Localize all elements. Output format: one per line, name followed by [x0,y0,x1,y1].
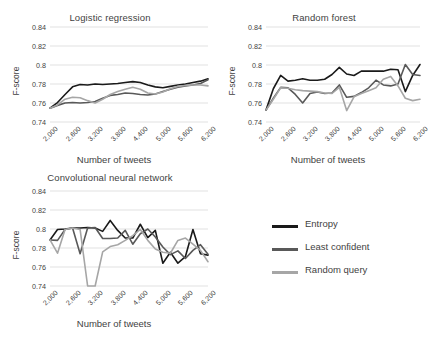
y-tick-label: 0.76 [248,99,262,108]
chart-title-random-forest: Random forest [220,12,428,23]
legend-item-random-query[interactable]: Random query [272,262,422,285]
legend-swatch-least-confident [272,248,298,251]
plot-area-logistic-regression: 0.740.760.780.80.820.84 2,0002,6003,2003… [50,27,208,122]
y-tick-label: 0.84 [32,187,46,196]
y-tick-label: 0.76 [32,99,46,108]
plot-svg-convolutional-neural-network [50,191,208,286]
y-tick-label: 0.84 [248,23,262,32]
series-lines-logistic-regression [50,79,208,108]
plot-svg-random-forest [266,27,420,122]
y-tick-label: 0.74 [32,282,46,291]
y-ticks-convolutional-neural-network: 0.740.760.780.80.820.84 [8,191,46,286]
y-tick-label: 0.74 [32,118,46,127]
y-tick-label: 0.78 [32,80,46,89]
legend-item-entropy[interactable]: Entropy [272,216,422,239]
chart-legend: Entropy Least confident Random query [272,216,422,285]
legend-swatch-random-query [272,271,298,274]
y-ticks-logistic-regression: 0.740.760.780.80.820.84 [8,27,46,122]
legend-label-random-query: Random query [305,264,367,275]
legend-label-entropy: Entropy [305,218,338,229]
y-tick-label: 0.8 [36,225,46,234]
panel-random-forest: Random forest F-score 0.740.760.780.80.8… [220,12,428,172]
series-line-random-query [50,85,208,108]
legend-swatch-entropy [272,225,298,228]
y-tick-label: 0.82 [248,42,262,51]
y-tick-label: 0.78 [32,244,46,253]
y-ticks-random-forest: 0.740.760.780.80.820.84 [224,27,262,122]
series-line-least-confident [50,228,208,259]
x-axis-label-convolutional-neural-network: Number of tweets [24,318,204,329]
y-tick-label: 0.8 [252,61,262,70]
y-tick-label: 0.82 [32,206,46,215]
y-tick-label: 0.74 [248,118,262,127]
plot-svg-logistic-regression [50,27,208,122]
panel-logistic-regression: Logistic regression F-score 0.740.760.78… [4,12,216,172]
legend-label-least-confident: Least confident [305,241,369,252]
gridlines-logistic-regression [50,27,208,122]
x-ticks-logistic-regression: 2,0002,6003,2003,8004,4005,0005,6006,200 [50,122,208,152]
series-lines-convolutional-neural-network [50,220,208,286]
series-lines-random-forest [266,65,420,111]
gridlines-random-forest [266,27,420,122]
plot-area-random-forest: 0.740.760.780.80.820.84 2,0002,6003,2003… [266,27,420,122]
y-tick-label: 0.82 [32,42,46,51]
chart-title-logistic-regression: Logistic regression [4,12,216,23]
x-ticks-random-forest: 2,0002,6003,2003,8004,4005,0005,6006,200 [266,122,420,152]
y-tick-label: 0.76 [32,263,46,272]
y-tick-label: 0.78 [248,80,262,89]
plot-area-convolutional-neural-network: 0.740.760.780.80.820.84 2,0002,6003,2003… [50,191,208,286]
legend-item-least-confident[interactable]: Least confident [272,239,422,262]
x-axis-label-random-forest: Number of tweets [238,154,418,165]
x-axis-label-logistic-regression: Number of tweets [24,154,204,165]
panel-convolutional-neural-network: Convolutional neural network F-score 0.7… [4,172,216,340]
y-tick-label: 0.84 [32,23,46,32]
x-ticks-convolutional-neural-network: 2,0002,6003,2003,8004,4005,0005,6006,200 [50,286,208,316]
y-tick-label: 0.8 [36,61,46,70]
chart-title-convolutional-neural-network: Convolutional neural network [4,172,216,183]
